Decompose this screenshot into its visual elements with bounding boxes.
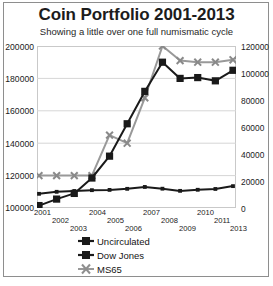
right-axis-tick-120000: 120000 [241, 42, 273, 52]
left-axis-tick-100000: 100000 [0, 203, 34, 213]
x-axis-tick-2013: 2013 [230, 224, 247, 233]
legend-item-dow-jones: Dow Jones [78, 248, 198, 262]
series-uncirculated [37, 184, 235, 195]
x-axis-tick-2004: 2004 [89, 208, 106, 217]
right-axis-tick-80000: 80000 [241, 96, 273, 106]
right-axis-tick-60000: 60000 [241, 123, 273, 133]
right-axis-tick-0: 0 [241, 204, 273, 214]
x-axis-tick-2002: 2002 [52, 216, 69, 225]
x-marker-icon [78, 263, 94, 275]
chart-subtitle: Showing a little over one full numismati… [0, 26, 273, 37]
x-axis-tick-2006: 2006 [125, 224, 142, 233]
square-marker-icon [78, 249, 94, 261]
x-axis-tick-2003: 2003 [70, 224, 87, 233]
legend-label-uncirculated: Uncirculated [97, 236, 150, 247]
right-axis-tick-100000: 100000 [241, 69, 273, 79]
legend-label-ms65: MS65 [97, 264, 122, 275]
chart-screenshot: Coin Portfolio 2001-2013 Showing a littl… [0, 0, 273, 286]
chart-legend: Uncirculated Dow Jones MS65 [78, 234, 198, 276]
square-marker-icon [78, 235, 94, 247]
left-axis-tick-180000: 180000 [0, 74, 34, 84]
legend-item-uncirculated: Uncirculated [78, 234, 198, 248]
legend-label-dow-jones: Dow Jones [97, 250, 144, 261]
x-axis-tick-2005: 2005 [107, 216, 124, 225]
x-axis-tick-2010: 2010 [197, 208, 214, 217]
legend-item-ms65: MS65 [78, 262, 198, 276]
plot-area [37, 46, 236, 208]
right-axis-tick-40000: 40000 [241, 150, 273, 160]
x-axis-tick-2007: 2007 [143, 208, 160, 217]
x-axis-tick-2001: 2001 [34, 208, 51, 217]
left-axis-tick-160000: 160000 [0, 106, 34, 116]
plot-svg [37, 46, 236, 208]
left-axis-tick-200000: 200000 [0, 42, 34, 52]
chart-title: Coin Portfolio 2001-2013 [0, 5, 273, 25]
x-axis-tick-2008: 2008 [161, 216, 178, 225]
left-axis-tick-140000: 140000 [0, 139, 34, 149]
right-axis-tick-20000: 20000 [241, 177, 273, 187]
x-axis-tick-2011: 2011 [214, 216, 230, 225]
x-axis-tick-2009: 2009 [179, 224, 196, 233]
series-dow-jones [37, 59, 236, 208]
series-ms65 [37, 46, 236, 179]
left-axis-tick-120000: 120000 [0, 171, 34, 181]
